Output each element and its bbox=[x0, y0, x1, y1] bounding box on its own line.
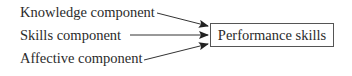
arrow-knowledge bbox=[157, 13, 208, 26]
performance-skills-label: Performance skills bbox=[218, 27, 326, 44]
performance-skills-box: Performance skills bbox=[210, 23, 334, 47]
arrow-affective bbox=[144, 44, 208, 60]
